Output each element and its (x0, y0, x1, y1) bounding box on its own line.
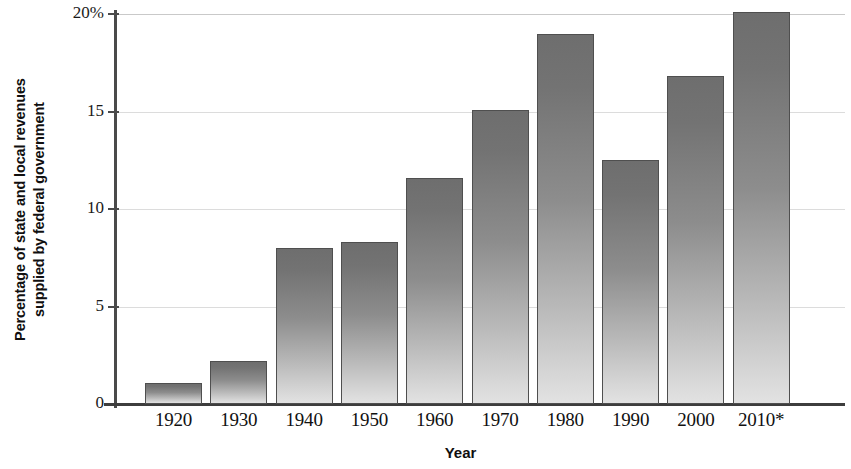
x-axis-title: Year (0, 444, 851, 461)
bar-1950 (341, 242, 398, 404)
x-tick-label-1980: 1980 (528, 409, 603, 431)
x-tick-label-1970: 1970 (463, 409, 538, 431)
bar-2010 (733, 12, 790, 404)
bar-1990 (602, 160, 659, 404)
bar-1940 (276, 248, 333, 404)
x-axis-tick-labels: 1920193019401950196019701980199020002010… (0, 409, 851, 443)
x-tick-label-1930: 1930 (201, 409, 276, 431)
bar-2000 (667, 76, 724, 404)
x-tick-label-1920: 1920 (136, 409, 211, 431)
x-axis-title-text: Year (445, 444, 477, 461)
bar-1930 (210, 361, 267, 404)
x-tick-label-1990: 1990 (593, 409, 668, 431)
x-tick-label-1940: 1940 (267, 409, 342, 431)
bar-series (0, 0, 851, 420)
bar-1920 (145, 383, 202, 404)
x-tick-label-1950: 1950 (332, 409, 407, 431)
x-tick-label-2010: 2010* (724, 409, 799, 431)
bar-1980 (537, 34, 594, 405)
bar-chart: Percentage of state and local revenues s… (0, 0, 851, 469)
x-tick-label-1960: 1960 (397, 409, 472, 431)
x-tick-label-2000: 2000 (658, 409, 733, 431)
bar-1970 (472, 110, 529, 404)
bar-1960 (406, 178, 463, 404)
